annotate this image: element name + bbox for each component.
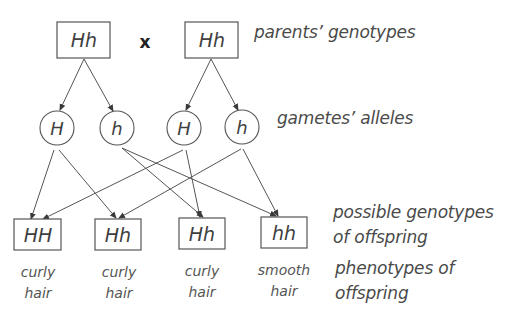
gamete-allele: H (177, 118, 191, 139)
phenotypes-label-line2: offspring (335, 283, 409, 303)
offspring-Hh-box-1: Hh (95, 219, 141, 250)
parent-right-genotype: Hh (199, 29, 225, 51)
gamete-h-left: h (100, 111, 134, 145)
phenotypes-label-line1: phenotypes of (335, 258, 454, 278)
parent-gamete-arrows (60, 59, 238, 111)
gamete-H-right: H (167, 111, 201, 145)
offspring-genotype: Hh (105, 224, 131, 246)
phenotype-line1: curly (3, 262, 73, 283)
offspring-genotype: HH (24, 224, 53, 246)
possible-genotypes-label-line1: possible genotypes (333, 202, 494, 222)
gametes-alleles-label: gametes’ alleles (277, 108, 413, 128)
phenotype-line2: hair (167, 282, 237, 303)
phenotype-line1: curly (167, 261, 237, 282)
parent-left-genotype: Hh (71, 29, 97, 51)
cross-symbol: x (140, 32, 151, 52)
offspring-hh-box: hh (261, 217, 307, 248)
gamete-allele: h (236, 117, 247, 138)
gamete-allele: H (50, 118, 64, 139)
phenotype-line1: smooth (249, 260, 319, 281)
gamete-h-right: h (225, 110, 259, 144)
phenotype-label: curly hair (3, 262, 73, 304)
parent-right-box: Hh (185, 22, 238, 58)
offspring-HH-box: HH (14, 219, 61, 250)
phenotype-line2: hair (84, 283, 154, 304)
parent-left-box: Hh (57, 22, 110, 58)
gamete-offspring-arrows (31, 148, 278, 219)
phenotype-line2: hair (249, 281, 319, 302)
phenotype-label: curly hair (84, 262, 154, 304)
gamete-H-left: H (40, 111, 74, 145)
offspring-genotype: hh (272, 222, 296, 244)
offspring-Hh-box-2: Hh (179, 218, 225, 249)
phenotype-label: curly hair (167, 261, 237, 303)
parents-genotypes-label: parents’ genotypes (254, 22, 415, 42)
gamete-allele: h (111, 118, 122, 139)
phenotype-line2: hair (3, 283, 73, 304)
offspring-genotype: Hh (189, 223, 215, 245)
phenotype-line1: curly (84, 262, 154, 283)
possible-genotypes-label-line2: of offspring (333, 227, 428, 247)
phenotype-label: smooth hair (249, 260, 319, 302)
